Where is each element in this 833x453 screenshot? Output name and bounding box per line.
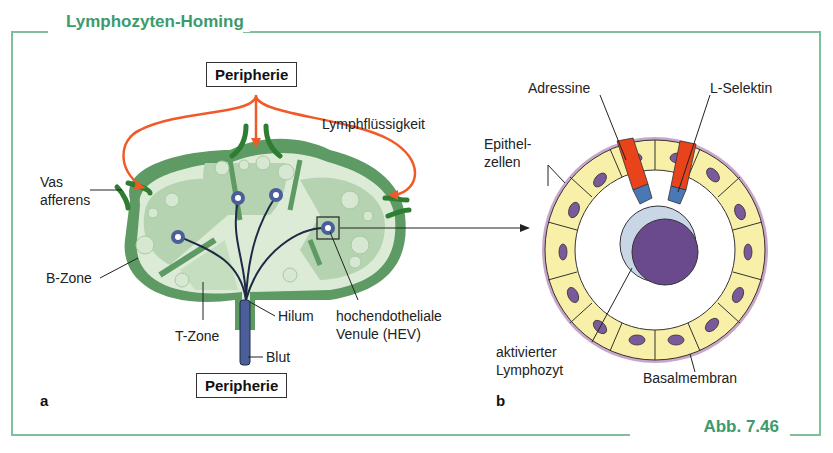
label-vas-afferens-1: Vas bbox=[40, 174, 63, 191]
label-b-zone: B-Zone bbox=[46, 270, 92, 287]
label-t-zone: T-Zone bbox=[175, 328, 219, 345]
panel-b-label: b bbox=[496, 392, 505, 409]
label-epithel-1: Epithel- bbox=[484, 136, 531, 153]
periphery-bottom-box: Peripherie bbox=[196, 373, 287, 398]
figure-title: Lymphozyten-Homing bbox=[60, 12, 250, 32]
label-lymphozyt-1: aktivierter bbox=[496, 344, 557, 361]
label-lymph: Lymphflüssigkeit bbox=[322, 116, 425, 133]
label-hev-1: hochendotheliale bbox=[336, 308, 442, 325]
figure-caption: Abb. 7.46 bbox=[697, 417, 785, 437]
hev-cross-section bbox=[542, 95, 768, 372]
label-lymphozyt-2: Lymphozyt bbox=[496, 362, 563, 379]
panel-a-label: a bbox=[40, 392, 48, 409]
label-hev-2: Venule (HEV) bbox=[336, 326, 421, 343]
periphery-top-box: Peripherie bbox=[206, 62, 297, 87]
label-l-selektin: L-Selektin bbox=[710, 80, 772, 97]
label-blut: Blut bbox=[266, 349, 290, 366]
label-hilum: Hilum bbox=[278, 308, 314, 325]
label-basalmembran: Basalmembran bbox=[643, 370, 737, 387]
label-adressine: Adressine bbox=[528, 80, 590, 97]
label-vas-afferens-2: afferens bbox=[40, 192, 90, 209]
label-epithel-2: zellen bbox=[484, 154, 521, 171]
